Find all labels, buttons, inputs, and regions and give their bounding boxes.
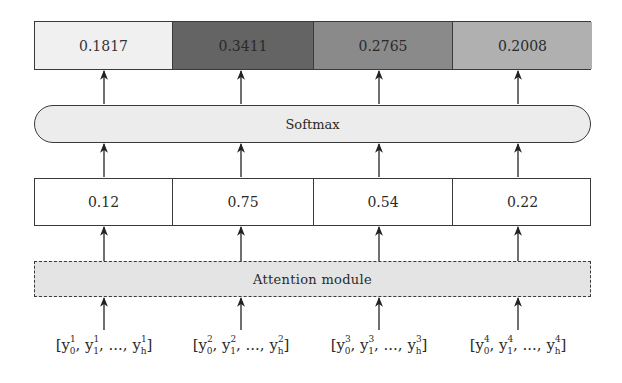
- input-vector-1: [y10, y11, ..., y1h]: [56, 336, 153, 356]
- input-vector-4: [y40, y41, ..., y4h]: [470, 336, 567, 356]
- arrow-layer: [0, 0, 622, 383]
- input-vector-2: [y20, y21, ..., y2h]: [193, 336, 290, 356]
- input-vector-3: [y30, y31, ..., y3h]: [331, 336, 428, 356]
